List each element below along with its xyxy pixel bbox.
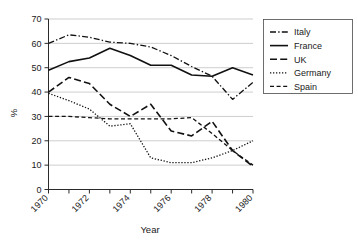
y-tick-label: 70 (31, 14, 41, 24)
legend-label-uk: UK (294, 55, 307, 65)
y-tick-label: 10 (31, 160, 41, 170)
y-tick-label: 60 (31, 39, 41, 49)
y-tick-label: 50 (31, 63, 41, 73)
legend-label-spain: Spain (294, 82, 317, 92)
line-chart: 010203040506070 197019721974197619781980… (0, 0, 358, 246)
legend: ItalyFranceUKGermanySpain (264, 20, 353, 94)
y-tick-label: 0 (36, 185, 41, 195)
y-tick-label: 30 (31, 112, 41, 122)
chart-svg: 010203040506070 197019721974197619781980… (0, 0, 358, 246)
legend-label-italy: Italy (294, 27, 311, 37)
y-axis-title: % (8, 108, 19, 117)
legend-label-germany: Germany (294, 68, 332, 78)
x-axis-title: Year (140, 224, 159, 235)
y-tick-label: 40 (31, 87, 41, 97)
legend-label-france: France (294, 41, 322, 51)
y-tick-label: 20 (31, 136, 41, 146)
